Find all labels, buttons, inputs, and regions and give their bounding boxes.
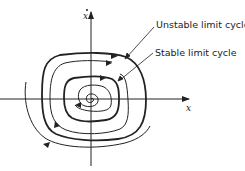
vertical-axis-label: x (83, 12, 88, 21)
leader-lines (118, 27, 154, 81)
unstable-limit-cycle (42, 53, 146, 140)
arrow-stable-top (100, 75, 106, 81)
vertical-axis-label-dot (86, 9, 88, 11)
axes (0, 12, 189, 166)
phase-portrait-figure: Unstable limit cycle Stable limit cycle … (0, 0, 245, 171)
horizontal-axis-label: x (186, 104, 191, 113)
trajectory-between-cycles (50, 61, 128, 134)
arrow-unstable-left (54, 121, 60, 128)
unstable-limit-cycle-label: Unstable limit cycle (156, 20, 245, 30)
arrow-between-top (106, 60, 112, 66)
stable-limit-cycle-label: Stable limit cycle (155, 48, 237, 58)
leader-stable-tip (118, 76, 123, 81)
arrow-outer-left (43, 142, 50, 148)
leader-unstable (126, 27, 154, 58)
